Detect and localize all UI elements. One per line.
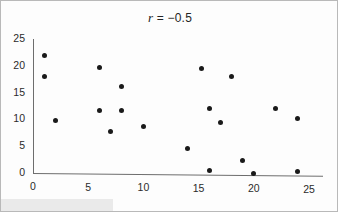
data-point <box>53 118 58 123</box>
x-tick-label: 15 <box>188 182 210 194</box>
x-tick-label: 5 <box>77 181 99 193</box>
data-point <box>207 168 212 173</box>
data-point <box>273 106 278 111</box>
data-point <box>119 84 124 89</box>
data-point <box>119 108 124 113</box>
data-point <box>185 146 190 151</box>
y-tick-label: 10 <box>3 112 25 124</box>
data-point <box>199 66 204 71</box>
data-point <box>108 129 113 134</box>
x-tick-label: 25 <box>298 183 320 195</box>
y-tick-label: 25 <box>3 32 25 44</box>
data-point <box>97 108 102 113</box>
y-axis-line <box>33 39 34 173</box>
y-tick-label: 0 <box>3 166 25 178</box>
data-point <box>141 124 146 129</box>
scatter-plot-figure: r = −0.5 0510152025 0510152025 <box>0 0 338 212</box>
data-point <box>42 53 47 58</box>
chart-title: r = −0.5 <box>1 10 338 26</box>
x-tick-label: 10 <box>132 181 154 193</box>
data-point <box>42 74 47 79</box>
data-point <box>97 65 102 70</box>
y-tick-label: 20 <box>3 59 25 71</box>
x-tick-label: 0 <box>22 180 44 192</box>
x-axis-line <box>33 173 323 177</box>
scan-artifact-band <box>1 199 113 211</box>
data-point <box>218 120 223 125</box>
data-point <box>240 158 245 163</box>
data-point <box>251 171 256 176</box>
data-point <box>207 106 212 111</box>
correlation-value: = −0.5 <box>153 11 192 25</box>
data-point <box>295 169 300 174</box>
x-tick-label: 20 <box>243 182 265 194</box>
data-point <box>229 74 234 79</box>
data-point <box>295 116 300 121</box>
y-tick-label: 15 <box>3 86 25 98</box>
y-tick-label: 5 <box>3 139 25 151</box>
